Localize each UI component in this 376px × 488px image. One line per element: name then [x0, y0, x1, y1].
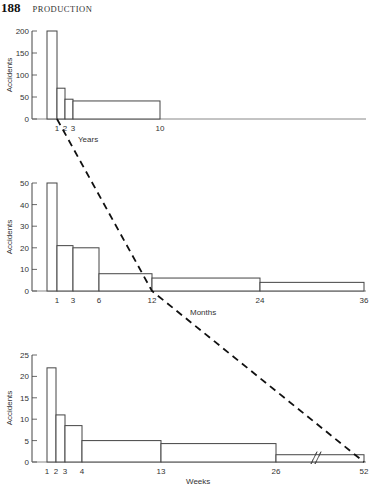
y-tick-label: 25: [20, 351, 29, 360]
y-tick-label: 5: [25, 437, 30, 446]
x-axis-label: Weeks: [186, 477, 210, 486]
x-tick-label: 6: [97, 296, 102, 305]
chart-weeks: 0510152025Accidents1234132652Weeks: [5, 351, 369, 486]
histogram-bar: [57, 246, 73, 291]
y-tick-label: 20: [20, 244, 29, 253]
y-tick-label: 50: [20, 93, 29, 102]
histogram-bar: [47, 368, 56, 462]
histogram-bar: [260, 282, 364, 291]
histogram-bar: [73, 248, 99, 291]
histogram-bar: [276, 455, 364, 462]
y-axis-label: Accidents: [5, 58, 14, 93]
y-tick-label: 0: [25, 287, 30, 296]
y-tick-label: 30: [20, 222, 29, 231]
y-tick-label: 20: [20, 372, 29, 381]
histogram-bar: [47, 31, 57, 119]
x-tick-label: 1: [55, 124, 60, 133]
x-tick-label: 2: [54, 467, 59, 476]
histogram-bar: [65, 426, 82, 462]
x-tick-label: 52: [360, 467, 369, 476]
y-tick-label: 150: [16, 49, 30, 58]
x-axis-label: Months: [190, 308, 216, 317]
histogram-bar: [56, 415, 65, 462]
y-tick-label: 15: [20, 394, 29, 403]
x-axis-label: Years: [78, 135, 98, 144]
x-tick-label: 3: [63, 467, 68, 476]
x-tick-label: 12: [148, 296, 157, 305]
y-tick-label: 200: [16, 27, 30, 36]
chart-months: 01020304050Accidents136122436Months: [5, 179, 369, 317]
x-tick-label: 4: [80, 467, 85, 476]
histogram-bar: [152, 278, 260, 291]
y-tick-label: 10: [20, 415, 29, 424]
x-tick-label: 24: [256, 296, 265, 305]
x-tick-label: 3: [71, 124, 76, 133]
y-tick-label: 40: [20, 201, 29, 210]
histogram-bar: [82, 441, 161, 462]
y-tick-label: 0: [25, 458, 30, 467]
x-tick-label: 3: [71, 296, 76, 305]
y-axis-label: Accidents: [5, 391, 14, 426]
x-tick-label: 36: [360, 296, 369, 305]
y-tick-label: 10: [20, 265, 29, 274]
histogram-bar: [65, 99, 73, 119]
accident-histograms-figure: 050100150200Accidents12310Years010203040…: [0, 0, 376, 488]
histogram-bar: [73, 101, 160, 119]
histogram-bar: [47, 183, 57, 291]
histogram-bar: [161, 444, 276, 462]
histogram-bar: [99, 274, 152, 291]
y-tick-label: 50: [20, 179, 29, 188]
histogram-bar: [57, 88, 65, 119]
x-tick-label: 10: [156, 124, 165, 133]
x-tick-label: 1: [45, 467, 50, 476]
x-tick-label: 1: [55, 296, 60, 305]
y-tick-label: 100: [16, 71, 30, 80]
x-tick-label: 13: [157, 467, 166, 476]
x-tick-label: 26: [272, 467, 281, 476]
chart-years: 050100150200Accidents12310Years: [5, 27, 366, 144]
y-tick-label: 0: [25, 115, 30, 124]
y-axis-label: Accidents: [5, 220, 14, 255]
